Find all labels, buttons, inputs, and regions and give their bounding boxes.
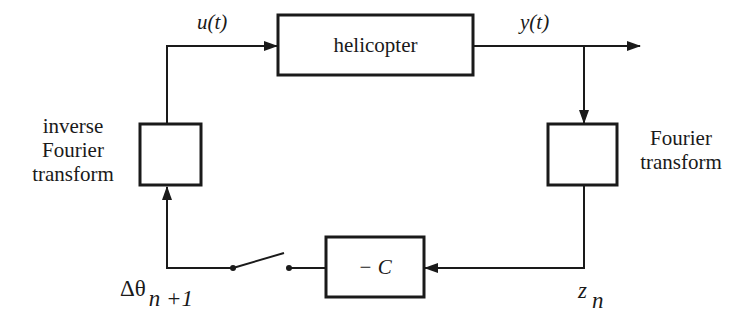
- switch-blade: [233, 253, 284, 268]
- gain-label: − C: [326, 237, 424, 297]
- fourier-block: [548, 124, 617, 185]
- measurement-label: zn: [578, 278, 603, 304]
- fourier-caption-line2: transform: [616, 150, 746, 174]
- fourier-caption: Fourier transform: [616, 126, 746, 174]
- fourier-caption-line1: Fourier: [616, 126, 746, 150]
- inverse-fourier-caption-line2: Fourier: [8, 138, 138, 162]
- feedback-line: [425, 185, 584, 268]
- inverse-fourier-caption-line1: inverse: [8, 114, 138, 138]
- helicopter-label: helicopter: [278, 15, 473, 75]
- inverse-fourier-block: [140, 124, 201, 185]
- update-label-subscript: n +1: [149, 286, 193, 311]
- input-signal-line: [167, 46, 277, 124]
- input-signal-label: u(t): [197, 10, 227, 34]
- update-label-base: Δθ: [120, 276, 146, 301]
- inverse-fourier-caption-line3: transform: [8, 162, 138, 186]
- inverse-fourier-caption: inverse Fourier transform: [8, 114, 138, 186]
- output-signal-label: y(t): [520, 10, 549, 34]
- update-label: Δθn +1: [120, 276, 193, 302]
- measurement-label-subscript: n: [592, 288, 604, 313]
- update-signal-line: [167, 187, 233, 268]
- switch-contact-right: [286, 265, 292, 271]
- measurement-label-base: z: [578, 278, 587, 303]
